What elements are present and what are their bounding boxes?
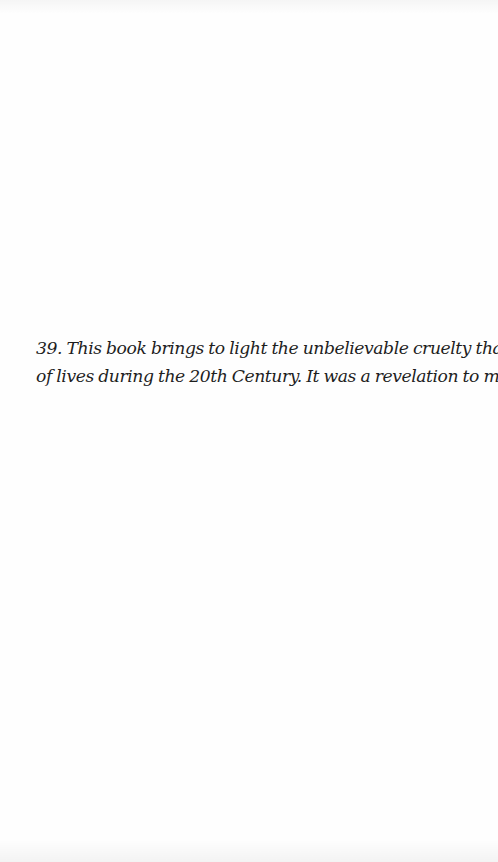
- entry-line-1-text: This book brings to light the unbelievab…: [67, 338, 498, 358]
- entry-number: 39.: [36, 338, 62, 358]
- entry-line-1: 39. This book brings to light the unbeli…: [36, 334, 476, 362]
- numbered-entry: 39. This book brings to light the unbeli…: [36, 334, 476, 390]
- entry-line-2: of lives during the 20th Century. It was…: [36, 362, 476, 390]
- book-page: 39. This book brings to light the unbeli…: [0, 0, 498, 862]
